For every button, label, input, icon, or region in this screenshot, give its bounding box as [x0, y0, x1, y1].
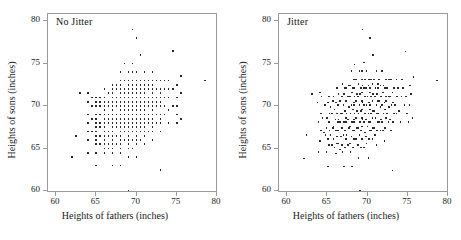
- data-point: [99, 135, 101, 137]
- data-point: [409, 85, 411, 87]
- y-tick-label: 75: [20, 57, 40, 67]
- data-point: [376, 144, 378, 146]
- data-point: [132, 122, 134, 124]
- data-point: [329, 121, 331, 123]
- data-point: [136, 131, 138, 133]
- data-point: [321, 96, 323, 98]
- data-point: [164, 80, 166, 82]
- data-point: [108, 105, 110, 107]
- data-point: [140, 126, 142, 128]
- data-point: [358, 83, 360, 85]
- data-point: [367, 126, 369, 128]
- data-point: [176, 84, 178, 86]
- x-tick-label: 65: [314, 196, 338, 206]
- data-point: [320, 113, 322, 115]
- data-point: [373, 127, 375, 129]
- data-point: [401, 79, 403, 81]
- data-point: [104, 97, 106, 99]
- data-point: [136, 71, 138, 73]
- data-point: [160, 118, 162, 120]
- data-point: [152, 131, 154, 133]
- data-point: [172, 105, 174, 107]
- data-point: [351, 166, 353, 168]
- data-point: [99, 97, 101, 99]
- data-point: [405, 96, 407, 98]
- data-point: [108, 135, 110, 137]
- data-point: [152, 97, 154, 99]
- data-point: [132, 139, 134, 141]
- data-point: [346, 87, 348, 89]
- data-point: [87, 122, 89, 124]
- data-point: [136, 143, 138, 145]
- data-point: [152, 126, 154, 128]
- data-point: [156, 114, 158, 116]
- data-point: [95, 118, 97, 120]
- data-point: [370, 96, 372, 98]
- data-point: [120, 152, 122, 154]
- data-point: [120, 109, 122, 111]
- data-point: [396, 79, 398, 81]
- data-point: [347, 144, 349, 146]
- data-point: [136, 105, 138, 107]
- data-point: [388, 106, 390, 108]
- data-point: [87, 101, 89, 103]
- data-point: [136, 37, 138, 39]
- data-point: [368, 102, 370, 104]
- data-point: [136, 118, 138, 120]
- data-point: [91, 105, 93, 107]
- data-point: [342, 83, 344, 85]
- data-point: [99, 114, 101, 116]
- data-point: [140, 139, 142, 141]
- data-point: [388, 121, 390, 123]
- data-point: [329, 96, 331, 98]
- data-point: [120, 148, 122, 150]
- data-point: [99, 143, 101, 145]
- data-point: [358, 113, 360, 115]
- data-point: [350, 85, 352, 87]
- data-point: [144, 71, 146, 73]
- data-point: [112, 152, 114, 154]
- data-point: [369, 121, 371, 123]
- data-point: [152, 80, 154, 82]
- data-point: [160, 169, 162, 171]
- data-point: [120, 101, 122, 103]
- data-point: [140, 54, 142, 56]
- data-point: [148, 84, 150, 86]
- data-point: [337, 121, 339, 123]
- data-point: [120, 118, 122, 120]
- data-point: [376, 104, 378, 106]
- data-point: [344, 110, 346, 112]
- data-point: [389, 96, 391, 98]
- data-point: [345, 138, 347, 140]
- data-point: [124, 88, 126, 90]
- data-point: [124, 131, 126, 133]
- data-point: [354, 130, 356, 132]
- y-tick-label: 75: [251, 57, 271, 67]
- data-point: [79, 92, 81, 94]
- data-point: [136, 156, 138, 158]
- data-point: [342, 151, 344, 153]
- data-point: [132, 63, 134, 65]
- data-point: [333, 138, 335, 140]
- data-point: [156, 88, 158, 90]
- data-point: [351, 92, 353, 94]
- data-point: [120, 88, 122, 90]
- data-point: [140, 131, 142, 133]
- data-point: [99, 101, 101, 103]
- x-tick-label: 70: [124, 196, 148, 206]
- data-point: [393, 87, 395, 89]
- data-point: [370, 113, 372, 115]
- data-point: [318, 151, 320, 153]
- data-point: [345, 100, 347, 102]
- data-point: [116, 143, 118, 145]
- data-point: [346, 113, 348, 115]
- data-point: [108, 131, 110, 133]
- y-tick-label: 65: [20, 142, 40, 152]
- data-point: [124, 114, 126, 116]
- data-point: [168, 97, 170, 99]
- data-point: [356, 110, 358, 112]
- data-point: [325, 104, 327, 106]
- data-point: [120, 126, 122, 128]
- data-point: [400, 121, 402, 123]
- data-point: [152, 139, 154, 141]
